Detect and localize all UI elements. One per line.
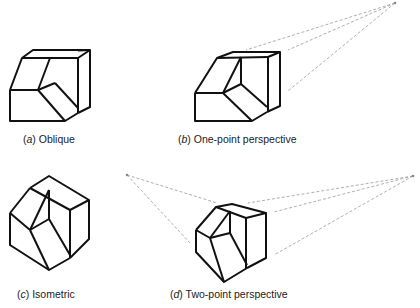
oblique-drawing	[10, 50, 90, 121]
right-vanishing-point	[412, 175, 415, 178]
vanishing-point	[394, 2, 397, 5]
projection-diagram	[0, 0, 420, 308]
one-point-drawing	[195, 52, 280, 121]
caption-oblique: (a) Oblique	[23, 133, 75, 145]
caption-one-point-perspective: (b) One-point perspective	[178, 133, 297, 145]
isometric-drawing	[10, 176, 89, 270]
caption-two-point-perspective: (d) Two-point perspective	[170, 288, 288, 300]
left-vanishing-point	[126, 174, 129, 177]
two-point-construction-lines	[127, 175, 413, 255]
two-point-drawing	[196, 204, 266, 282]
caption-isometric: (c) Isometric	[17, 288, 75, 300]
